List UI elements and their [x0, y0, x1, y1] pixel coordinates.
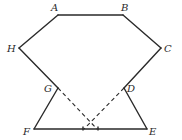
segment-cd: [124, 48, 161, 88]
segment-de: [124, 88, 147, 129]
label-a: A: [50, 2, 58, 13]
dashed-line-from-d: [84, 88, 124, 129]
segment-ha: [19, 15, 58, 48]
segment-bc: [123, 15, 161, 48]
dashed-line-from-g: [58, 88, 97, 129]
geometry-diagram: A B C H G D F E: [0, 0, 182, 140]
label-e: E: [148, 126, 157, 137]
label-b: B: [120, 2, 128, 13]
label-d: D: [126, 83, 135, 94]
label-c: C: [164, 43, 172, 54]
label-h: H: [6, 43, 16, 54]
label-g: G: [44, 83, 52, 94]
segment-gh: [19, 48, 58, 88]
label-f: F: [22, 126, 31, 137]
segment-fg: [34, 88, 58, 129]
